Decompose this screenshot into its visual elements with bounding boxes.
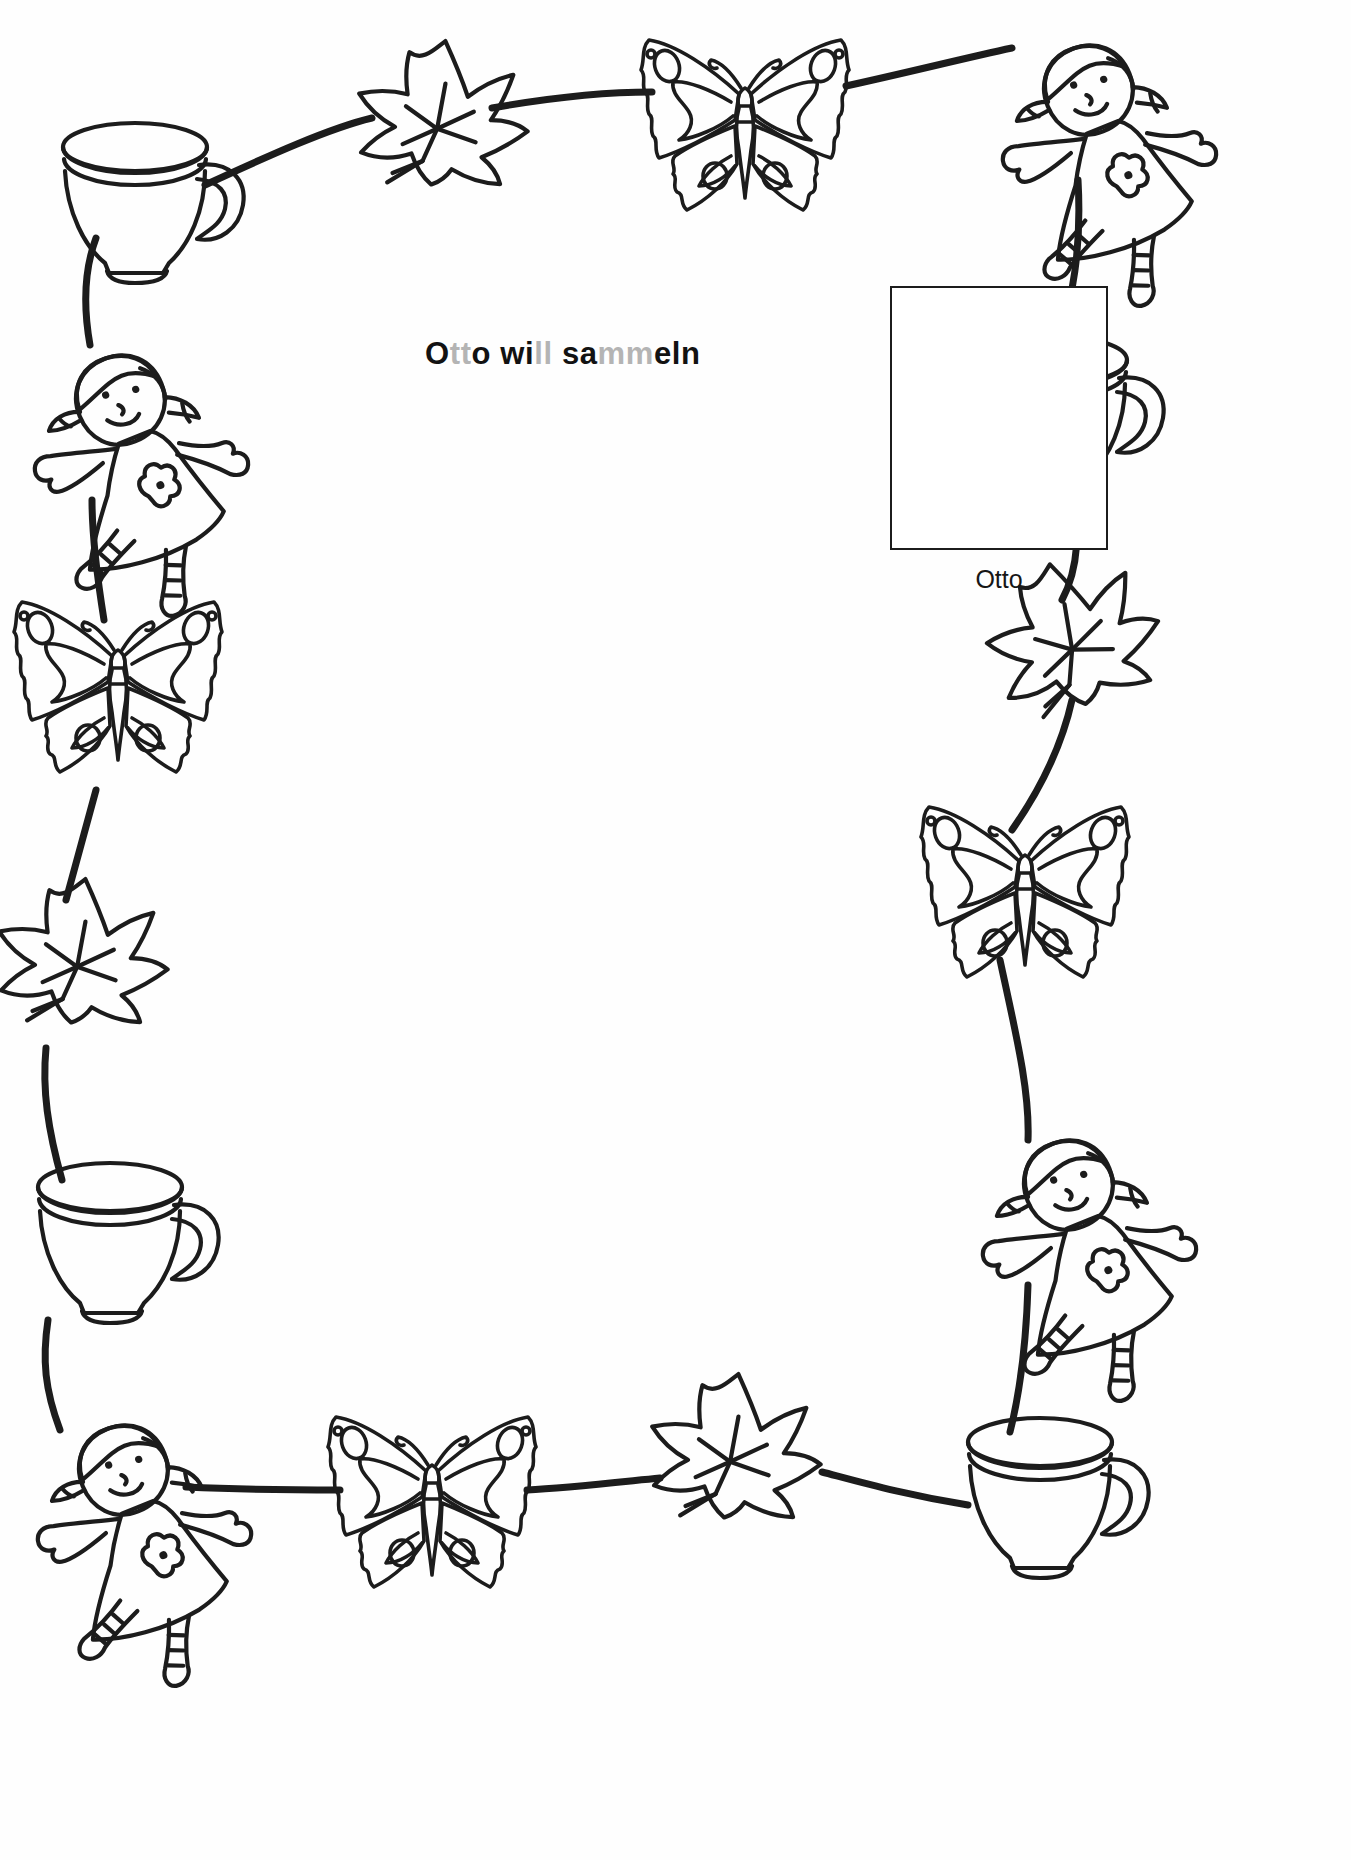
title-segment: mm xyxy=(598,336,654,371)
title-segment: sa xyxy=(553,336,598,371)
illustration-doll-bottom-left xyxy=(6,1393,294,1715)
illustration-doll-right-1 xyxy=(951,1108,1239,1430)
page-title: Otto will sammeln xyxy=(425,336,701,372)
illustration-cup-top-left xyxy=(63,123,244,283)
title-segment: o wi xyxy=(472,336,535,371)
worksheet-page: Otto will sammeln Otto xyxy=(0,0,1351,1860)
title-segment: tt xyxy=(450,336,472,371)
illustration-cup-bottom-right xyxy=(968,1418,1149,1578)
illustration-butterfly-right-1 xyxy=(921,807,1129,977)
illustration-butterfly-bottom-1 xyxy=(328,1417,536,1587)
illustration-leaf-top-1 xyxy=(348,30,539,200)
title-segment: eln xyxy=(654,336,701,371)
title-segment: O xyxy=(425,336,450,371)
illustration-doll-left-1 xyxy=(3,323,291,645)
border-illustrations xyxy=(0,0,1351,1860)
answer-box[interactable] xyxy=(890,286,1108,550)
illustration-cup-left-1 xyxy=(38,1163,219,1323)
illustration-leaf-bottom-1 xyxy=(641,1363,832,1533)
answer-box-label: Otto xyxy=(890,565,1108,594)
illustration-leaf-left-1 xyxy=(0,868,178,1038)
illustration-butterfly-left-1 xyxy=(14,602,222,772)
title-segment: ll xyxy=(534,336,552,371)
illustration-butterfly-top-1 xyxy=(641,40,849,210)
